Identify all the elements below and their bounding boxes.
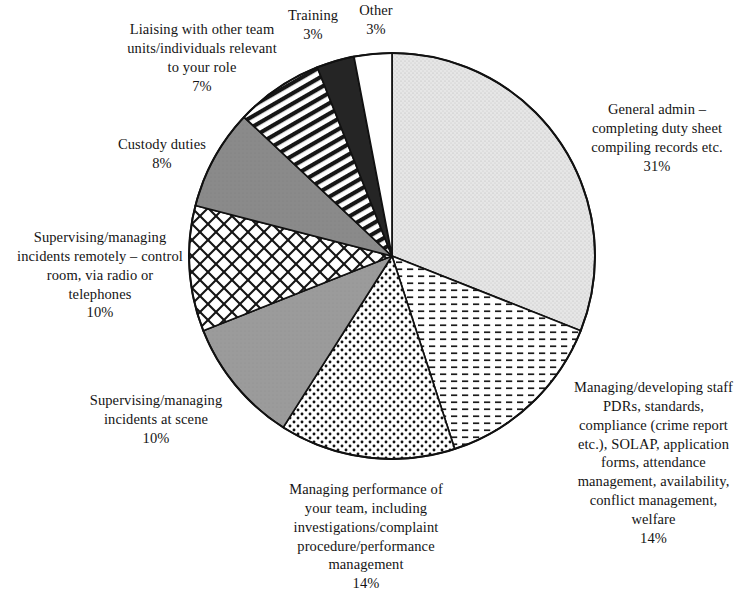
label-line: to your role [168,59,237,75]
label-line: Custody duties [118,136,206,152]
label-percent: 31% [573,157,741,176]
label-line: management, availability, [578,473,730,489]
label-line: conflict management, [590,492,718,508]
slice-label-general-admin: General admin – completing duty sheet co… [573,100,741,175]
label-line: investigations/complaint [294,519,439,535]
slice-label-incidents-remotely: Supervising/managing incidents remotely … [2,228,198,322]
slice-label-managing-developing-staff: Managing/developing staff PDRs, standard… [566,378,741,548]
label-percent: 3% [275,25,351,44]
label-percent: 10% [2,303,198,322]
label-percent: 10% [60,429,252,448]
label-line: completing duty sheet [592,120,722,136]
label-line: PDRs, standards, [603,398,704,414]
label-line: Liaising with other team [130,21,275,37]
label-line: etc.), SOLAP, application [578,436,729,452]
slice-label-incidents-at-scene: Supervising/managing incidents at scene … [60,391,252,448]
label-line: welfare [631,511,675,527]
label-line: telephones [68,286,131,302]
label-line: forms, attendance [601,454,706,470]
label-line: Managing performance of [289,481,443,497]
pie-chart-figure: General admin – completing duty sheet co… [0,0,741,595]
slice-label-custody-duties: Custody duties 8% [74,135,250,173]
slice-label-training: Training 3% [275,6,351,44]
label-line: Supervising/managing [90,392,223,408]
label-percent: 3% [345,20,407,39]
label-percent: 7% [103,77,301,96]
label-line: General admin – [608,101,706,117]
label-line: incidents remotely – control [17,248,183,264]
label-line: compiling records etc. [591,139,722,155]
label-percent: 14% [253,574,479,593]
label-line: compliance (crime report [579,417,728,433]
label-line: Training [288,7,338,23]
slice-label-liaising: Liaising with other team units/individua… [103,20,301,95]
slice-label-other: Other 3% [345,1,407,39]
label-line: procedure/performance [297,538,434,554]
label-line: management [328,556,403,572]
label-line: incidents at scene [104,411,208,427]
label-percent: 14% [566,529,741,548]
label-line: Other [359,2,393,18]
label-line: room, via radio or [47,267,154,283]
label-line: your team, including [305,500,427,516]
label-line: units/individuals relevant [127,40,277,56]
slice-label-managing-performance: Managing performance of your team, inclu… [253,480,479,593]
label-line: Managing/developing staff [574,379,733,395]
label-percent: 8% [74,154,250,173]
label-line: Supervising/managing [34,229,167,245]
